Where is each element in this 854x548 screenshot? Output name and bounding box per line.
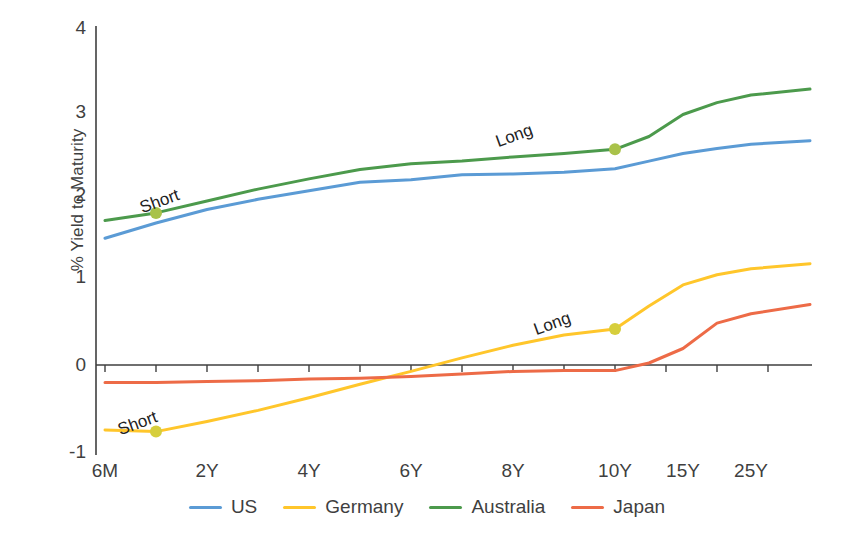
series-line-us bbox=[105, 141, 810, 239]
chart-svg bbox=[0, 0, 854, 548]
legend-label-germany: Germany bbox=[325, 496, 403, 518]
axis-lines bbox=[96, 26, 812, 455]
legend-label-japan: Japan bbox=[613, 496, 665, 518]
legend-item-us[interactable]: US bbox=[189, 496, 257, 518]
annotation-markers bbox=[150, 143, 621, 437]
legend-item-australia[interactable]: Australia bbox=[429, 496, 545, 518]
legend-swatch-australia bbox=[429, 506, 462, 509]
legend-label-australia: Australia bbox=[471, 496, 545, 518]
legend-label-us: US bbox=[231, 496, 257, 518]
legend-item-germany[interactable]: Germany bbox=[283, 496, 403, 518]
legend-swatch-japan bbox=[571, 506, 604, 509]
chart-root: % Yield to Maturity 4 3 2 1 0 -1 6M 2Y 4… bbox=[0, 0, 854, 548]
series-lines bbox=[105, 89, 810, 432]
marker-australia-long bbox=[609, 143, 621, 155]
marker-germany-long bbox=[609, 323, 621, 335]
series-line-japan bbox=[105, 304, 810, 382]
series-line-germany bbox=[105, 264, 810, 432]
series-line-australia bbox=[105, 89, 810, 220]
legend-swatch-germany bbox=[283, 506, 316, 509]
legend-item-japan[interactable]: Japan bbox=[571, 496, 665, 518]
legend-swatch-us bbox=[189, 506, 222, 509]
chart-legend: USGermanyAustraliaJapan bbox=[0, 496, 854, 518]
plot-area: Short Long Short Long bbox=[0, 0, 854, 548]
